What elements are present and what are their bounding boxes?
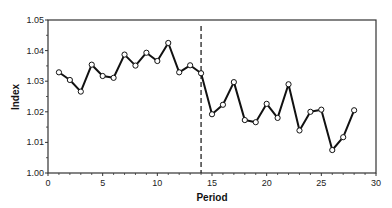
data-point-marker [297,128,302,133]
data-point-marker [308,109,313,114]
data-point-marker [56,70,61,75]
y-axis-title: Index [10,84,21,111]
data-point-marker [231,80,236,85]
data-point-marker [253,120,258,125]
data-point-marker [330,147,335,152]
data-series [56,40,356,152]
data-point-marker [166,40,171,45]
y-tick-label: 1.02 [26,107,44,117]
data-point-marker [220,102,225,107]
x-tick-label: 10 [152,178,162,188]
y-tick-label: 1.00 [26,168,44,178]
x-tick-label: 20 [262,178,272,188]
plot-area-border [48,20,376,173]
data-point-marker [155,58,160,63]
data-point-marker [198,71,203,76]
x-tick-label: 5 [100,178,105,188]
x-axis: 051015202530 [45,173,381,188]
x-tick-label: 0 [45,178,50,188]
x-axis-title: Period [196,192,227,203]
data-point-marker [122,52,127,57]
data-point-marker [67,77,72,82]
data-point-marker [275,115,280,120]
data-point-marker [188,63,193,68]
y-tick-label: 1.05 [26,15,44,25]
data-point-marker [209,112,214,117]
data-point-marker [341,135,346,140]
x-tick-label: 25 [316,178,326,188]
y-axis: 1.001.011.021.031.041.05 [26,15,48,178]
line-chart: 1.001.011.021.031.041.05 051015202530 Pe… [0,0,392,208]
data-point-marker [286,82,291,87]
data-point-marker [242,117,247,122]
y-tick-label: 1.03 [26,76,44,86]
plot-frame [48,20,376,173]
data-point-marker [133,63,138,68]
data-point-marker [319,107,324,112]
data-point-marker [78,89,83,94]
data-point-marker [89,62,94,67]
data-point-marker [100,73,105,78]
y-tick-label: 1.04 [26,46,44,56]
data-point-marker [111,75,116,80]
data-point-marker [177,70,182,75]
x-tick-label: 30 [371,178,381,188]
data-point-marker [352,108,357,113]
y-tick-label: 1.01 [26,137,44,147]
series-line [59,43,354,150]
data-point-marker [264,101,269,106]
x-tick-label: 15 [207,178,217,188]
data-point-marker [144,50,149,55]
